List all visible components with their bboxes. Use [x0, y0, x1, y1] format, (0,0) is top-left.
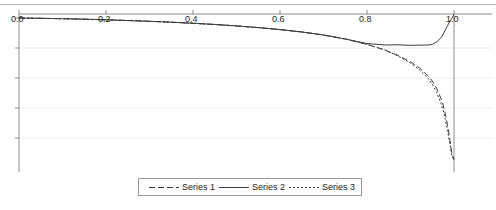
solid-line-sample	[219, 183, 249, 192]
x-tick-label: 0.8	[359, 15, 372, 24]
legend-item[interactable]: Series 1	[145, 179, 215, 195]
legend-label: Series 1	[182, 183, 215, 192]
x-tick-label: 0.2	[98, 15, 111, 24]
chart-container: 0.00.20.40.60.81.0 Series 1Series 2Serie…	[0, 0, 496, 210]
series-line-series-1	[19, 18, 454, 160]
x-tick-label: 0.6	[272, 15, 285, 24]
x-tick-label: 0.0	[11, 15, 24, 24]
gridlines	[19, 48, 492, 138]
legend[interactable]: Series 1Series 2Series 3	[138, 178, 362, 196]
dashed-line-sample	[149, 183, 179, 192]
legend-label: Series 2	[252, 183, 285, 192]
x-tick-label: 0.4	[185, 15, 198, 24]
legend-item[interactable]: Series 3	[285, 179, 355, 195]
axes	[15, 10, 492, 172]
legend-label: Series 3	[322, 183, 355, 192]
legend-item[interactable]: Series 2	[215, 179, 285, 195]
x-tick-label: 1.0	[446, 15, 459, 24]
series-line-series-3	[19, 18, 454, 160]
dotted-line-sample	[289, 183, 319, 192]
